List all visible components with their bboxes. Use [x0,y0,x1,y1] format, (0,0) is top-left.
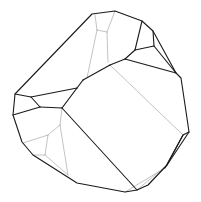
edge [31,97,40,107]
crystal-diagram: Crystal polyhedron line drawing [0,0,201,202]
edge [135,21,142,50]
hidden-edges [23,11,183,192]
edge [97,30,107,32]
outline-edge [13,11,189,192]
edge [110,59,125,65]
edge [107,11,115,32]
polyhedron-drawing [0,0,201,202]
edge [31,88,77,97]
edge [45,135,48,155]
edge [154,46,176,73]
edge [13,107,40,115]
edge [83,65,110,80]
edge [125,50,135,59]
edge [40,107,62,108]
edge [110,65,183,135]
edge [167,132,189,165]
edge [125,59,176,73]
edge [23,135,48,143]
visible-edges [13,11,189,192]
edge [165,135,183,168]
edge [15,94,31,97]
edge [95,15,97,30]
edge [77,80,83,88]
edge [48,125,60,135]
edge [60,108,62,125]
edge [87,30,97,78]
edge [62,108,137,190]
edge [137,165,167,190]
edge [135,46,154,50]
edge [60,125,68,175]
edge [107,32,108,62]
